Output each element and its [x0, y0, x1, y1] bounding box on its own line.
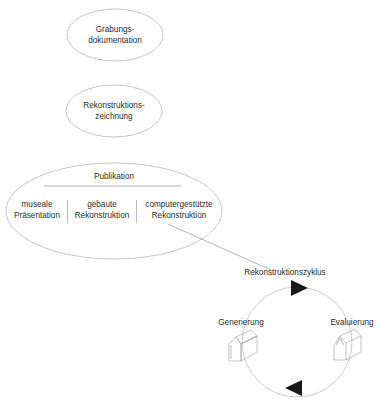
column-1-line1: museale	[8, 199, 66, 210]
house-wireframe-icon-left	[229, 330, 257, 361]
column-2-line1: gebaute	[70, 199, 134, 210]
node-rekonstruktionszeichnung-label: Rekonstruktions- zeichnung	[69, 100, 159, 122]
node-grabungsdokumentation-line2: dokumentation	[75, 35, 155, 46]
publikation-column-museale-praesentation: museale Präsentation	[8, 199, 66, 221]
connector-line	[168, 224, 271, 270]
arrow-left-icon	[285, 380, 302, 396]
node-rekonstruktionszeichnung-line2: zeichnung	[69, 111, 159, 122]
cut-off-caption	[0, 0, 381, 2]
publikation-column-computergestuetzte-rekonstruktion: computergestützte Rekonstruktion	[138, 199, 220, 221]
cycle-circle	[242, 287, 352, 397]
cycle-label-generierung: Generierung	[214, 317, 268, 328]
house-wireframe-icon-right	[334, 329, 361, 360]
cycle-label-evaluierung: Evaluierung	[326, 317, 378, 328]
cycle-title: Rekonstruktionszyklus	[238, 267, 332, 278]
column-1-line2: Präsentation	[8, 210, 66, 221]
column-3-line1: computergestützte	[138, 199, 220, 210]
column-2-line2: Rekonstruktion	[70, 210, 134, 221]
column-3-line2: Rekonstruktion	[138, 210, 220, 221]
node-grabungsdokumentation-line1: Grabungs-	[75, 24, 155, 35]
node-grabungsdokumentation-label: Grabungs- dokumentation	[75, 24, 155, 46]
node-rekonstruktionszeichnung-line1: Rekonstruktions-	[69, 100, 159, 111]
publikation-column-gebaute-rekonstruktion: gebaute Rekonstruktion	[70, 199, 134, 221]
arrow-right-icon	[291, 280, 308, 296]
publikation-title: Publikation	[74, 171, 154, 182]
diagram-canvas: Grabungs- dokumentation Rekonstruktions-…	[0, 0, 381, 401]
